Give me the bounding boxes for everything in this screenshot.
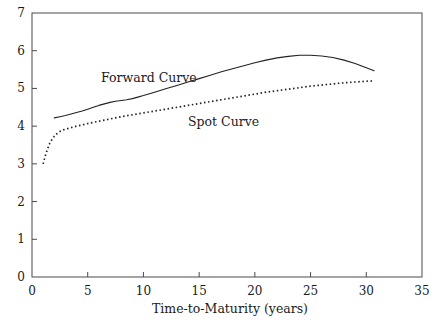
x-tick-label: 0 bbox=[28, 285, 36, 297]
x-tick-label: 35 bbox=[414, 285, 429, 297]
x-tick-label: 5 bbox=[84, 285, 92, 297]
series-annotation-label: Forward Curve bbox=[101, 70, 197, 85]
y-tick-label: 7 bbox=[17, 7, 25, 19]
axes-frame bbox=[32, 13, 422, 277]
y-tick-label: 3 bbox=[17, 158, 25, 170]
plot-frame bbox=[32, 13, 422, 277]
y-axis-ticks bbox=[32, 51, 37, 240]
x-tick-label: 10 bbox=[136, 285, 151, 297]
y-tick-label: 1 bbox=[17, 233, 25, 245]
x-tick-label: 30 bbox=[359, 285, 374, 297]
x-axis-ticks bbox=[88, 272, 367, 277]
y-tick-label: 2 bbox=[17, 196, 25, 208]
x-axis-title: Time-to-Maturity (years) bbox=[152, 301, 308, 316]
x-tick-label: 25 bbox=[303, 285, 318, 297]
y-tick-label: 4 bbox=[17, 120, 25, 132]
plot-area bbox=[0, 0, 440, 322]
x-tick-label: 15 bbox=[192, 285, 207, 297]
data-series-group bbox=[43, 55, 374, 164]
y-tick-label: 0 bbox=[17, 271, 25, 283]
y-tick-label: 6 bbox=[17, 45, 25, 57]
series-line-forward-curve bbox=[54, 55, 374, 118]
y-tick-label: 5 bbox=[17, 82, 25, 94]
x-tick-label: 20 bbox=[247, 285, 262, 297]
chart-figure: 01234567 05101520253035 Forward CurveSpo… bbox=[0, 0, 440, 322]
series-annotation-label: Spot Curve bbox=[188, 114, 259, 129]
